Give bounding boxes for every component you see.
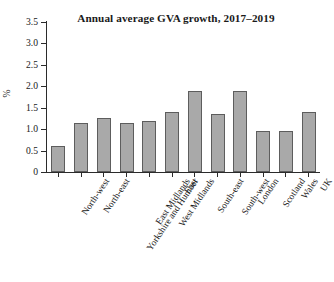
y-axis-tick-label: 0 bbox=[8, 167, 38, 177]
x-axis-tick-label: UK bbox=[319, 177, 334, 193]
bar-slot bbox=[297, 22, 320, 172]
bar-series bbox=[47, 22, 320, 172]
bar-slot bbox=[161, 22, 184, 172]
bar-slot bbox=[184, 22, 207, 172]
y-axis-tick-label: 1.0 bbox=[8, 124, 38, 134]
bar[interactable] bbox=[256, 131, 270, 172]
x-axis-labels: North-westNorth-eastYorkshire and Humber… bbox=[47, 177, 320, 277]
bar[interactable] bbox=[120, 123, 134, 172]
bar[interactable] bbox=[188, 91, 202, 172]
y-axis-tick bbox=[41, 129, 46, 130]
y-axis-tick-label: 3.0 bbox=[8, 38, 38, 48]
bar[interactable] bbox=[165, 112, 179, 172]
bar[interactable] bbox=[211, 114, 225, 172]
y-axis-tick bbox=[41, 108, 46, 109]
y-axis-tick bbox=[41, 172, 46, 173]
bar[interactable] bbox=[302, 112, 316, 172]
bar-slot bbox=[93, 22, 116, 172]
bar-slot bbox=[70, 22, 93, 172]
bar-slot bbox=[47, 22, 70, 172]
bar[interactable] bbox=[51, 146, 65, 172]
y-axis-tick bbox=[41, 65, 46, 66]
y-axis-tick bbox=[41, 86, 46, 87]
y-axis-tick-label: 2.0 bbox=[8, 81, 38, 91]
y-axis-tick-label: 3.5 bbox=[8, 17, 38, 27]
y-axis-tick-label: 1.5 bbox=[8, 103, 38, 113]
y-axis-tick-label: 2.5 bbox=[8, 60, 38, 70]
bar-slot bbox=[229, 22, 252, 172]
bar-slot bbox=[275, 22, 298, 172]
bar-slot bbox=[252, 22, 275, 172]
bar[interactable] bbox=[279, 131, 293, 172]
bar[interactable] bbox=[142, 121, 156, 172]
bar-slot bbox=[206, 22, 229, 172]
y-axis-tick bbox=[41, 43, 46, 44]
bar-slot bbox=[115, 22, 138, 172]
bar-slot bbox=[138, 22, 161, 172]
y-axis-tick-label: 0.5 bbox=[8, 146, 38, 156]
bar[interactable] bbox=[233, 91, 247, 172]
y-axis-tick bbox=[41, 151, 46, 152]
bar[interactable] bbox=[97, 118, 111, 172]
bar[interactable] bbox=[74, 123, 88, 172]
y-axis-tick bbox=[41, 22, 46, 23]
